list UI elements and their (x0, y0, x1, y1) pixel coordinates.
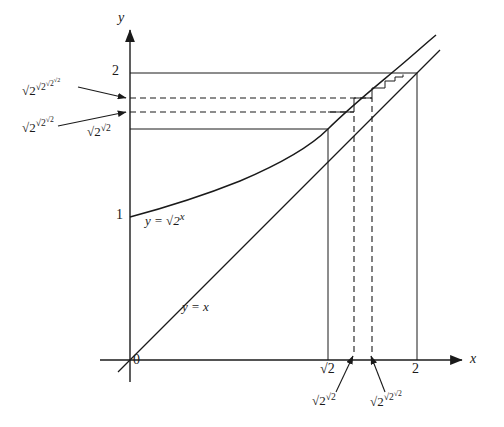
arrow-left-upper (78, 87, 126, 98)
annotation-tower-4-e1: √2 (36, 81, 46, 92)
arrow-bottom-right (371, 356, 385, 392)
y-tick-sqrt2-base: √2 (87, 124, 101, 139)
identity-line-label: y = x (182, 300, 209, 313)
y-axis-label: y (118, 11, 124, 25)
exponential-curve-label: y = √2x (145, 211, 185, 227)
annotation-bottom-tower-2: √2√2 (312, 394, 336, 407)
y-tick-sqrt2-pow-sqrt2: √2√2 (87, 125, 111, 138)
cobweb-figure: y x 0 2 1 √2√2 √2 2 y = √2x y = x √2√2√2… (0, 0, 504, 427)
annotation-bottom-tower-2-base: √2 (312, 393, 326, 408)
annotation-tower-4-base: √2 (22, 83, 36, 98)
annotation-tower-3-sup: √2√2 (36, 117, 54, 128)
vertical-dashed-lines (354, 98, 372, 352)
annotation-tower-3-e1: √2 (36, 117, 46, 128)
annotation-tower-4-sup2: √2√2 (46, 79, 61, 88)
annotation-tower-3-base: √2 (22, 120, 36, 135)
origin-label: 0 (133, 353, 140, 367)
x-axis-label: x (470, 352, 476, 366)
annotation-bottom-tower-3-sup: √2√2 (384, 391, 402, 402)
y-tick-sqrt2-exponent: √2 (101, 122, 111, 133)
x-tick-2: 2 (412, 362, 419, 376)
annotation-tower-4-e2: √2 (46, 79, 54, 88)
annotation-tower-3-e2: √2 (46, 115, 54, 124)
y-tick-2: 2 (112, 64, 119, 78)
cobweb-staircase (328, 75, 403, 113)
arrow-bottom-left (336, 356, 353, 392)
horizontal-dashed-lines (130, 98, 372, 112)
exponential-curve-label-exponent: x (180, 210, 185, 222)
annotation-bottom-tower-3-e1: √2 (384, 391, 394, 402)
y-tick-1: 1 (116, 208, 123, 222)
x-tick-sqrt2: √2 (320, 362, 335, 376)
annotation-bottom-tower-2-e1: √2 (326, 391, 336, 402)
horizontal-reference-lines (130, 73, 417, 129)
plot-canvas (0, 0, 504, 427)
annotation-tower-4: √2√2√2√2 (22, 80, 60, 97)
annotation-bottom-tower-3-base: √2 (370, 394, 384, 409)
annotation-bottom-tower-3: √2√2√2 (370, 394, 402, 408)
annotation-tower-3: √2√2√2 (22, 120, 54, 134)
exponential-curve-label-base: y = √2 (145, 213, 180, 228)
exponential-curve (130, 35, 436, 217)
annotation-tower-4-e3: √2 (54, 77, 60, 83)
annotation-tower-4-sup: √2√2√2 (36, 81, 61, 92)
annotation-bottom-tower-3-e2: √2 (394, 389, 402, 398)
